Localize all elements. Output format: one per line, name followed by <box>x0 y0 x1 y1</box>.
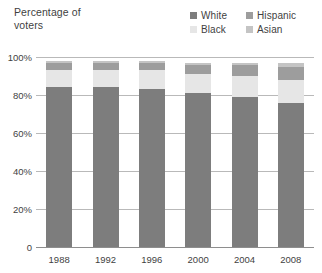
bar-group[interactable]: 1996 <box>139 57 165 247</box>
chart-legend: White Hispanic Black Asian <box>190 8 322 36</box>
bar-segment-hispanic[interactable] <box>46 63 72 71</box>
bar-segment-white[interactable] <box>46 87 72 247</box>
y-axis-tick-label: 40% <box>13 166 32 177</box>
plot-area: 020%40%60%80%100% 1988199219962000200420… <box>36 57 314 247</box>
bar-segment-hispanic[interactable] <box>185 65 211 75</box>
chart-title: Percentage of voters <box>14 6 81 32</box>
x-axis-tick-label: 2004 <box>234 254 255 265</box>
x-axis-tick-label: 1988 <box>49 254 70 265</box>
bar-stack[interactable] <box>232 63 258 247</box>
bar-segment-white[interactable] <box>139 89 165 247</box>
legend-item-black: Black <box>190 24 246 35</box>
bar-stack[interactable] <box>139 61 165 247</box>
y-axis-tick-label: 0 <box>27 242 32 253</box>
x-axis-tick-label: 1996 <box>141 254 162 265</box>
bar-segment-hispanic[interactable] <box>139 63 165 71</box>
legend-swatch-asian-icon <box>246 26 253 33</box>
bar-segment-white[interactable] <box>93 87 119 247</box>
x-axis-tick-label: 2008 <box>280 254 301 265</box>
bar-segment-black[interactable] <box>278 80 304 103</box>
legend-item-asian: Asian <box>246 24 322 35</box>
bar-segment-white[interactable] <box>185 93 211 247</box>
bar-group[interactable]: 1988 <box>46 57 72 247</box>
legend-label-hispanic: Hispanic <box>257 10 296 21</box>
bar-segment-black[interactable] <box>139 70 165 89</box>
bar-stack[interactable] <box>46 61 72 247</box>
legend-label-black: Black <box>201 24 226 35</box>
legend-label-white: White <box>201 10 227 21</box>
bar-segment-hispanic[interactable] <box>93 63 119 71</box>
gridline <box>36 247 314 248</box>
legend-swatch-hispanic-icon <box>246 12 253 19</box>
bar-group[interactable]: 1992 <box>93 57 119 247</box>
x-axis-tick-label: 1992 <box>95 254 116 265</box>
y-axis-tick-label: 100% <box>8 52 32 63</box>
bar-stack[interactable] <box>185 63 211 247</box>
bar-segment-hispanic[interactable] <box>232 65 258 76</box>
bar-group[interactable]: 2000 <box>185 57 211 247</box>
x-axis-tick-label: 2000 <box>188 254 209 265</box>
bar-segment-white[interactable] <box>278 103 304 247</box>
bar-segment-black[interactable] <box>46 70 72 87</box>
bar-series-container: 198819921996200020042008 <box>36 57 314 247</box>
y-axis-tick-label: 80% <box>13 90 32 101</box>
legend-swatch-white-icon <box>190 12 197 19</box>
bar-segment-black[interactable] <box>185 74 211 93</box>
bar-group[interactable]: 2004 <box>232 57 258 247</box>
legend-label-asian: Asian <box>257 24 283 35</box>
legend-item-hispanic: Hispanic <box>246 10 322 21</box>
y-axis-tick-label: 20% <box>13 204 32 215</box>
voter-percentage-chart: Percentage of voters White Hispanic Blac… <box>0 0 322 273</box>
bar-stack[interactable] <box>93 61 119 247</box>
bar-segment-white[interactable] <box>232 97 258 247</box>
y-axis-tick-label: 60% <box>13 128 32 139</box>
bar-segment-hispanic[interactable] <box>278 67 304 80</box>
legend-swatch-black-icon <box>190 26 197 33</box>
legend-item-white: White <box>190 10 246 21</box>
bar-segment-black[interactable] <box>93 70 119 87</box>
bar-group[interactable]: 2008 <box>278 57 304 247</box>
bar-stack[interactable] <box>278 63 304 247</box>
bar-segment-black[interactable] <box>232 76 258 97</box>
